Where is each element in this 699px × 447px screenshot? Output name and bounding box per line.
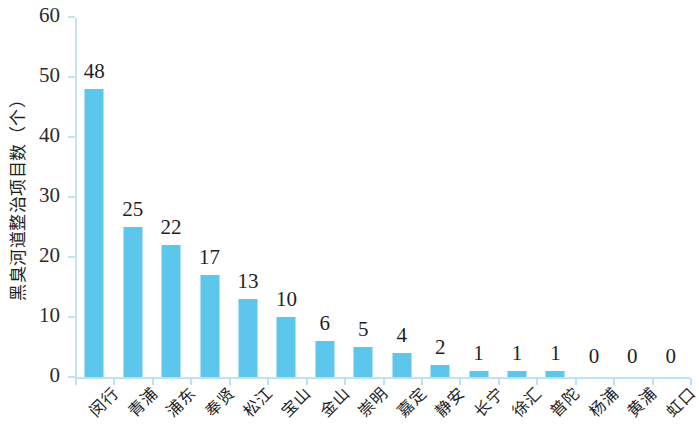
x-tick [690,378,692,385]
bar-slot[interactable]: 0 [575,18,613,377]
x-axis-label: 金山 [314,381,354,421]
plot-area: 0102030405060 4825221713106542111000 [75,18,690,378]
bar-slot[interactable]: 1 [459,18,497,377]
bar-slot[interactable]: 48 [75,18,113,377]
x-axis-label: 杨浦 [583,381,623,421]
bar-slot[interactable]: 2 [421,18,459,377]
bar-value-label: 25 [122,199,143,220]
bar-value-label: 0 [666,346,677,367]
x-axis-label: 闵行 [83,381,123,421]
bar-value-label: 0 [627,346,638,367]
bar-slot[interactable]: 13 [229,18,267,377]
bar-slot[interactable]: 5 [344,18,382,377]
bar-slot[interactable]: 22 [152,18,190,377]
bar-value-label: 10 [276,289,297,310]
bar[interactable] [315,341,334,377]
bar[interactable] [85,89,104,377]
bar-slot[interactable]: 1 [498,18,536,377]
y-tick-label: 60 [39,4,60,26]
x-axis-label: 徐汇 [506,381,546,421]
bar[interactable] [508,371,527,377]
x-axis-labels: 闵行青浦浦东奉贤松江宝山金山崇明嘉定静安长宁徐汇普陀杨浦黄浦虹口 [75,381,690,447]
x-axis-label: 长宁 [467,381,507,421]
bar-slot[interactable]: 6 [306,18,344,377]
x-axis-label: 青浦 [121,381,161,421]
bar-slot[interactable]: 1 [536,18,574,377]
bar-slot[interactable]: 4 [383,18,421,377]
bar-value-label: 2 [435,337,446,358]
bar-value-label: 0 [589,346,600,367]
bar-value-label: 48 [84,61,105,82]
y-tick: 40 [68,136,75,138]
bar-value-label: 1 [550,343,561,364]
bar[interactable] [238,299,257,377]
x-axis-label: 黄浦 [621,381,661,421]
y-tick: 10 [68,316,75,318]
bar-value-label: 13 [237,271,258,292]
bar-slot[interactable]: 25 [113,18,151,377]
bar-slot[interactable]: 17 [190,18,228,377]
y-axis-title: 黑臭河道整治项目数（个） [0,0,32,390]
bar[interactable] [392,353,411,377]
bar-value-label: 5 [358,319,369,340]
y-tick: 30 [68,196,75,198]
y-tick: 20 [68,256,75,258]
bar[interactable] [469,371,488,377]
x-axis-label: 松江 [237,381,277,421]
y-tick-label: 20 [39,244,60,266]
bar[interactable] [546,371,565,377]
x-axis-label: 崇明 [352,381,392,421]
bar-value-label: 6 [320,313,331,334]
y-tick-label: 30 [39,184,60,206]
bar-chart: 黑臭河道整治项目数（个） 0102030405060 4825221713106… [0,0,699,447]
bar-slot[interactable]: 10 [267,18,305,377]
x-axis-label: 奉贤 [198,381,238,421]
y-axis-title-label: 黑臭河道整治项目数（个） [4,90,29,300]
x-axis-label: 静安 [429,381,469,421]
y-tick-label: 40 [39,124,60,146]
bar-slot[interactable]: 0 [652,18,690,377]
bar[interactable] [354,347,373,377]
bar-value-label: 1 [473,343,484,364]
bar[interactable] [162,245,181,377]
y-tick-label: 50 [39,64,60,86]
bar[interactable] [200,275,219,377]
bar-slot[interactable]: 0 [613,18,651,377]
y-tick: 50 [68,76,75,78]
y-tick-label: 10 [39,304,60,326]
y-tick: 0 [68,376,75,378]
x-axis-label: 虹口 [659,381,699,421]
x-axis-label: 嘉定 [390,381,430,421]
bar[interactable] [431,365,450,377]
x-axis-label: 普陀 [544,381,584,421]
y-tick-label: 0 [50,364,61,386]
bar-value-label: 17 [199,247,220,268]
bar[interactable] [123,227,142,377]
x-axis-label: 宝山 [275,381,315,421]
bar[interactable] [277,317,296,377]
bar-value-label: 22 [161,217,182,238]
bar-value-label: 4 [396,325,407,346]
y-tick: 60 [68,16,75,18]
bar-value-label: 1 [512,343,523,364]
x-axis-label: 浦东 [160,381,200,421]
